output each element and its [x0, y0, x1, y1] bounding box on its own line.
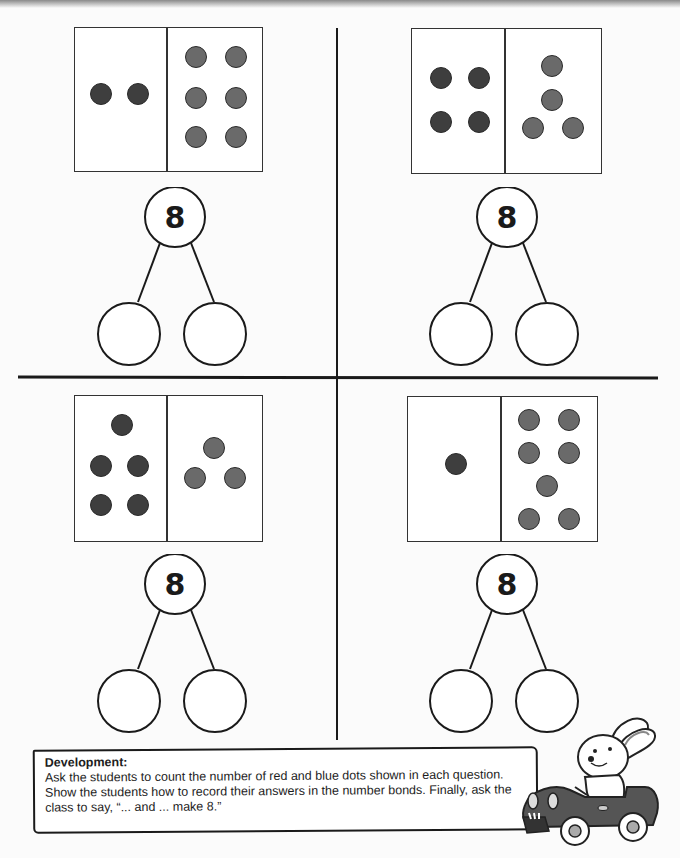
blue-dot [225, 126, 247, 148]
number-bond-q1: 8 [96, 187, 256, 367]
red-dot [90, 494, 112, 516]
blue-dot [562, 117, 584, 139]
ten-frame-q4 [407, 396, 598, 542]
number-bond-q3: 8 [96, 554, 256, 734]
horizontal-divider [18, 376, 658, 379]
page-edge-shadow [0, 0, 680, 8]
blue-dot [224, 467, 246, 489]
blue-dot [558, 442, 580, 464]
number-bond-q2: 8 [428, 187, 588, 367]
blue-dot [184, 467, 206, 489]
red-dot [430, 67, 452, 89]
blue-dot [185, 126, 207, 148]
blue-dot [558, 508, 580, 530]
bond-part-left-input[interactable] [98, 670, 158, 730]
blue-dot [185, 46, 207, 68]
bond-part-right-input[interactable] [184, 670, 244, 730]
red-dot [90, 83, 112, 105]
bond-whole-value: 8 [477, 554, 537, 614]
bond-whole-value: 8 [145, 554, 205, 614]
red-dot [111, 414, 133, 436]
blue-dot [518, 508, 540, 530]
blue-dot [541, 55, 563, 77]
red-dot [127, 455, 149, 477]
red-dot [127, 494, 149, 516]
red-dot [430, 111, 452, 133]
blue-dot [518, 409, 540, 431]
blue-dot [541, 89, 563, 111]
blue-dot [225, 87, 247, 109]
red-dot [127, 83, 149, 105]
rabbit-car-illustration [515, 705, 675, 855]
bond-part-right-input[interactable] [184, 303, 244, 363]
bond-whole-value: 8 [477, 187, 537, 247]
red-dot [445, 453, 467, 475]
red-dot [90, 455, 112, 477]
bond-part-left-input[interactable] [98, 303, 158, 363]
blue-dot [536, 475, 558, 497]
development-note: Development: Ask the students to count t… [33, 746, 539, 834]
blue-dot [558, 409, 580, 431]
bond-whole-value: 8 [145, 187, 205, 247]
ten-frame-q1 [74, 27, 263, 172]
red-dot [468, 67, 490, 89]
bond-part-left-input[interactable] [430, 670, 490, 730]
red-dot [468, 111, 490, 133]
blue-dot [203, 437, 225, 459]
bond-part-right-input[interactable] [516, 303, 576, 363]
ten-frame-q3 [74, 395, 263, 542]
bond-part-left-input[interactable] [430, 303, 490, 363]
note-body: Ask the students to count the number of … [45, 767, 512, 814]
ten-frame-q2 [411, 28, 602, 174]
blue-dot [518, 442, 540, 464]
blue-dot [185, 87, 207, 109]
vertical-divider [336, 28, 338, 740]
blue-dot [522, 117, 544, 139]
blue-dot [225, 46, 247, 68]
